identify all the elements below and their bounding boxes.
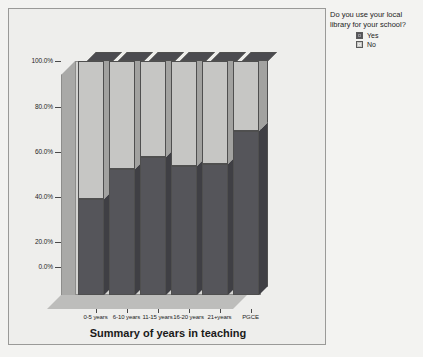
bar-top-face <box>118 52 153 61</box>
legend-item-label: No <box>367 41 376 48</box>
bar-top-face <box>211 52 246 61</box>
legend-swatch-icon <box>356 32 363 39</box>
bar-segment-yes[interactable] <box>202 164 228 295</box>
plot-floor <box>47 295 247 309</box>
legend-title-line-1: Do you use your local <box>330 10 421 20</box>
chart-panel: 100.0% 80.0% 60.0% 40.0% 20.0% 0.0% <box>8 8 326 345</box>
legend: Do you use your local library for your s… <box>328 10 421 48</box>
x-tick-mark <box>158 309 159 313</box>
bar-top-face <box>242 52 277 61</box>
y-tick-label: 80.0% <box>35 102 53 112</box>
y-tick-label: 60.0% <box>35 147 53 157</box>
bar-segment-no[interactable] <box>233 61 259 131</box>
bar-segment-no[interactable] <box>140 61 166 157</box>
plot-area <box>61 61 261 309</box>
legend-item-no[interactable]: No <box>328 41 421 48</box>
legend-item-yes[interactable]: Yes <box>328 32 421 39</box>
bar-top-face <box>87 52 122 61</box>
bar-group[interactable] <box>171 61 197 295</box>
bar-segment-yes[interactable] <box>109 169 135 295</box>
legend-swatch-icon <box>356 41 363 48</box>
chart-screenshot: 100.0% 80.0% 60.0% 40.0% 20.0% 0.0% <box>0 0 423 357</box>
bar-top-face <box>149 52 184 61</box>
bar-segment-no[interactable] <box>171 61 197 166</box>
x-tick-mark <box>220 309 221 313</box>
y-tick-label: 20.0% <box>35 237 53 247</box>
legend-title: Do you use your local library for your s… <box>328 10 421 30</box>
bar-group[interactable] <box>140 61 166 295</box>
bar-group[interactable] <box>202 61 228 295</box>
bar-segment-yes[interactable] <box>233 131 259 295</box>
bar-segment-yes-side <box>259 122 268 295</box>
x-axis-title: Summary of years in teaching <box>9 327 327 339</box>
bar-group[interactable] <box>109 61 135 295</box>
bar-group[interactable] <box>78 61 104 295</box>
bar-segment-no[interactable] <box>109 61 135 169</box>
bar-top-face <box>180 52 215 61</box>
y-tick-label: 100.0% <box>32 56 53 66</box>
bar-segment-yes[interactable] <box>78 199 104 295</box>
bar-segment-no[interactable] <box>78 61 104 199</box>
x-tick-mark <box>189 309 190 313</box>
plot-left-wall <box>61 61 75 309</box>
x-tick-mark <box>127 309 128 313</box>
bar-segment-yes[interactable] <box>171 166 197 295</box>
bar-segment-yes[interactable] <box>140 157 166 295</box>
y-axis: 100.0% 80.0% 60.0% 40.0% 20.0% 0.0% <box>9 9 61 271</box>
legend-item-label: Yes <box>367 32 378 39</box>
legend-title-line-2: library for your school? <box>330 20 421 30</box>
bar-segment-no[interactable] <box>202 61 228 164</box>
y-tick-label: 40.0% <box>35 192 53 202</box>
x-tick-mark <box>251 309 252 313</box>
bar-segment-no-side <box>259 52 268 131</box>
y-tick-label: 0.0% <box>39 262 53 272</box>
x-axis-label: PGCE <box>228 314 274 322</box>
bar-group[interactable] <box>233 61 259 295</box>
x-tick-mark <box>96 309 97 313</box>
